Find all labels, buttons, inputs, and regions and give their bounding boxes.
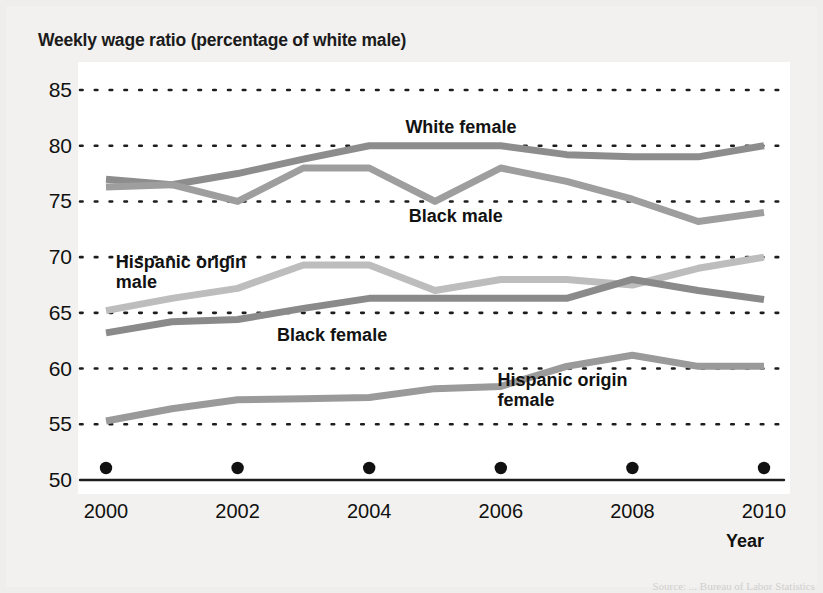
chart-figure: Weekly wage ratio (percentage of white m… <box>0 0 823 593</box>
x-tick-label: 2008 <box>587 500 677 523</box>
series-line-white-female <box>106 146 764 185</box>
series-label-hispanic-origin-female: Hispanic origin female <box>498 370 628 410</box>
y-axis-tick-labels: 8580757065605550 <box>20 62 72 494</box>
x-axis-marker <box>495 462 507 474</box>
x-axis-point-markers <box>100 462 770 474</box>
x-axis-marker <box>100 462 112 474</box>
y-tick-label: 60 <box>28 357 72 381</box>
x-axis-tick-labels: 200020022004200620082010 <box>78 500 790 530</box>
series-line-hispanic-origin-female <box>106 355 764 421</box>
y-tick-label: 85 <box>28 78 72 102</box>
x-axis-marker <box>626 462 638 474</box>
y-tick-label: 55 <box>28 412 72 436</box>
series-label-hispanic-origin-male: Hispanic origin male <box>116 252 246 292</box>
y-tick-label: 65 <box>28 301 72 325</box>
series-label-black-male: Black male <box>409 206 503 226</box>
source-note: Source: ... Bureau of Labor Statistics <box>470 580 815 592</box>
plot-area: White femaleBlack maleHispanic origin ma… <box>78 62 790 494</box>
y-tick-label: 80 <box>28 134 72 158</box>
x-axis-marker <box>363 462 375 474</box>
x-tick-label: 2002 <box>193 500 283 523</box>
x-axis-title: Year <box>700 531 790 552</box>
series-label-white-female: White female <box>405 117 516 137</box>
x-tick-label: 2004 <box>324 500 414 523</box>
series-label-black-female: Black female <box>277 325 387 345</box>
x-tick-label: 2010 <box>719 500 809 523</box>
x-tick-label: 2006 <box>456 500 546 523</box>
y-tick-label: 70 <box>28 245 72 269</box>
y-tick-label: 50 <box>28 468 72 492</box>
y-tick-label: 75 <box>28 189 72 213</box>
x-axis-marker <box>231 462 243 474</box>
chart-title: Weekly wage ratio (percentage of white m… <box>38 30 406 51</box>
x-tick-label: 2000 <box>61 500 151 523</box>
x-axis-marker <box>758 462 770 474</box>
